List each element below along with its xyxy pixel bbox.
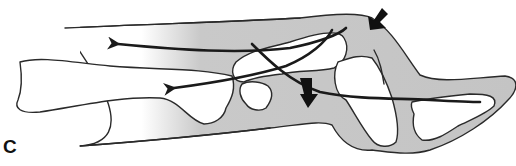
incoming-block-arrow-icon <box>368 8 388 30</box>
panel-label: C <box>3 137 17 156</box>
anatomical-diagram <box>0 0 516 166</box>
